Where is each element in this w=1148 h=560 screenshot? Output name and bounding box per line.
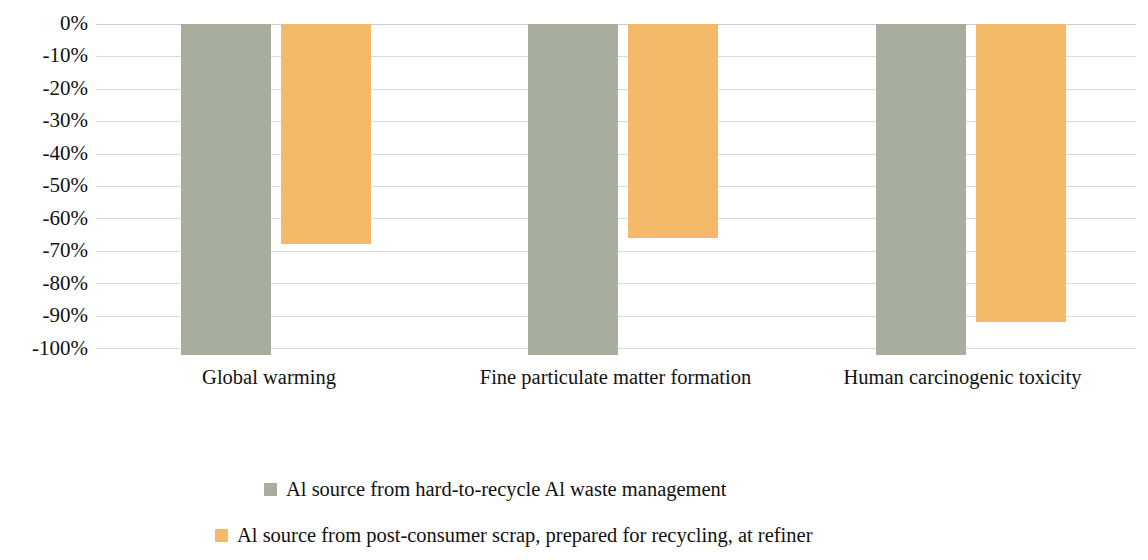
legend-swatch-icon-series2 bbox=[215, 529, 228, 542]
x-axis-label-global-warming: Global warming bbox=[96, 362, 442, 392]
y-axis-tick-label: -40% bbox=[0, 143, 88, 164]
bar-chart: 0% -10% -20% -30% -40% -50% -60% -70% -8… bbox=[0, 0, 1148, 560]
bar-groups bbox=[96, 24, 1136, 348]
y-axis-tick-label: -20% bbox=[0, 78, 88, 99]
bar-series2-fine-particulate-matter-formation bbox=[628, 24, 718, 238]
y-axis-tick-label: -80% bbox=[0, 273, 88, 294]
y-axis-tick-label: -60% bbox=[0, 208, 88, 229]
y-axis-tick-label: -30% bbox=[0, 110, 88, 131]
y-axis-tick-label: -90% bbox=[0, 305, 88, 326]
y-axis-tick-label: -100% bbox=[0, 338, 88, 359]
y-axis-tick-label: 0% bbox=[0, 13, 88, 34]
legend-item-series2: Al source from post-consumer scrap, prep… bbox=[0, 512, 1148, 558]
bar-group-human-carcinogenic-toxicity bbox=[789, 24, 1136, 348]
bar-group-fine-particulate-matter-formation bbox=[442, 24, 789, 348]
legend-swatch-icon-series1 bbox=[264, 483, 277, 496]
x-axis-label-human-carcinogenic-toxicity: Human carcinogenic toxicity bbox=[789, 362, 1136, 392]
y-axis-tick-label: -50% bbox=[0, 175, 88, 196]
bar-series1-fine-particulate-matter-formation bbox=[528, 24, 618, 355]
legend-item-series1: Al source from hard-to-recycle Al waste … bbox=[0, 466, 1148, 512]
x-axis-label-fine-particulate-matter-formation: Fine particulate matter formation bbox=[442, 362, 789, 392]
y-axis-tick-label: -70% bbox=[0, 240, 88, 261]
bar-series1-global-warming bbox=[181, 24, 271, 355]
bar-group-global-warming bbox=[96, 24, 442, 348]
y-axis-tick-label: -10% bbox=[0, 45, 88, 66]
bar-series2-human-carcinogenic-toxicity bbox=[976, 24, 1066, 322]
x-axis-category-labels: Global warming Fine particulate matter f… bbox=[96, 362, 1136, 396]
legend-label-series1: Al source from hard-to-recycle Al waste … bbox=[286, 477, 727, 501]
legend-label-series2: Al source from post-consumer scrap, prep… bbox=[237, 523, 812, 547]
chart-legend: Al source from hard-to-recycle Al waste … bbox=[0, 466, 1148, 558]
plot-area bbox=[96, 24, 1136, 348]
bar-series1-human-carcinogenic-toxicity bbox=[876, 24, 966, 355]
bar-series2-global-warming bbox=[281, 24, 371, 244]
